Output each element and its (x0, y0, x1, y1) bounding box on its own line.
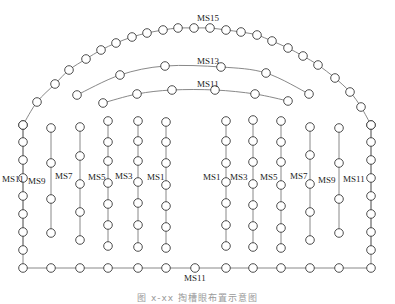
column-hole (104, 117, 113, 126)
column-hole (277, 181, 286, 190)
floor-hole (76, 264, 85, 273)
floor-hole (277, 264, 286, 273)
perimeter-hole (190, 24, 199, 33)
column-hole (47, 124, 56, 133)
floor-hole (104, 264, 113, 273)
label-column-ms5: MS5 (260, 172, 278, 182)
column-hole (222, 221, 231, 230)
column-hole (134, 243, 143, 252)
perimeter-hole (82, 55, 91, 64)
column-hole (162, 223, 171, 232)
perimeter-hole (51, 80, 60, 89)
label-column-ms9: MS9 (28, 176, 46, 186)
perimeter-hole (33, 98, 42, 107)
arc-hole (251, 90, 260, 99)
perimeter-hole (112, 39, 121, 48)
floor-hole (162, 264, 171, 273)
arc-hole (161, 62, 170, 71)
column-hole (277, 158, 286, 167)
column-hole (222, 159, 231, 168)
column-hole (162, 202, 171, 211)
column-hole (104, 221, 113, 230)
arc-hole (99, 99, 108, 108)
column-hole (222, 178, 231, 187)
column-hole (306, 208, 315, 217)
column-hole (367, 192, 376, 201)
perimeter-hole (97, 46, 106, 55)
perimeter-hole (346, 88, 355, 97)
column-hole (134, 157, 143, 166)
column-hole (19, 228, 28, 237)
label-ms15: MS15 (197, 13, 220, 23)
floor-hole (335, 264, 344, 273)
perimeter-hole (237, 28, 246, 37)
perimeter-hole (206, 24, 215, 33)
label-column-ms1: MS1 (203, 172, 221, 182)
perimeter-hole (174, 24, 183, 33)
column-hole (19, 156, 28, 165)
arc-hole (262, 69, 271, 78)
column-hole (134, 137, 143, 146)
arc-hole (168, 86, 177, 95)
column-hole (367, 246, 376, 255)
floor-hole (191, 264, 200, 273)
column-hole (277, 117, 286, 126)
column-hole (222, 199, 231, 208)
column-hole (367, 121, 376, 130)
floor-hole (306, 264, 315, 273)
column-hole (76, 152, 85, 161)
column-hole (249, 243, 258, 252)
floor-hole (367, 264, 376, 273)
outline-wall-floor-line (23, 125, 371, 268)
column-hole (19, 138, 28, 147)
perimeter-hole (65, 66, 74, 75)
floor-hole (47, 264, 56, 273)
perimeter-hole (299, 52, 308, 61)
column-hole (277, 244, 286, 253)
label-column-ms9: MS9 (318, 175, 336, 185)
column-hole (47, 229, 56, 238)
column-hole (335, 124, 344, 133)
arc-hole (116, 71, 125, 80)
perimeter-hole (159, 26, 168, 35)
column-hole (249, 222, 258, 231)
perimeter-hole (253, 31, 262, 40)
label-column-ms5: MS5 (88, 172, 106, 182)
figure-caption: 图 x-xx 掏槽眼布置示意图 (0, 291, 395, 304)
column-hole (249, 137, 258, 146)
perimeter-hole (357, 103, 366, 112)
label-column-ms11: MS11 (343, 174, 365, 184)
floor-hole (134, 264, 143, 273)
column-hole (134, 221, 143, 230)
column-hole (19, 192, 28, 201)
label-column-ms3: MS3 (115, 171, 133, 181)
column-hole (306, 151, 315, 160)
column-hole (162, 159, 171, 168)
floor-hole (222, 264, 231, 273)
column-hole (249, 116, 258, 125)
column-hole (19, 121, 28, 130)
perimeter-hole (222, 26, 231, 35)
label-column-ms1: MS1 (147, 172, 165, 182)
column-hole (104, 242, 113, 251)
column-hole (19, 246, 28, 255)
arc-hole (73, 91, 82, 100)
outline-arc-line (23, 28, 371, 125)
label-floor-ms11: MS11 (184, 273, 206, 283)
label-column-ms7: MS7 (290, 171, 308, 181)
floor-hole (19, 264, 28, 273)
column-hole (222, 117, 231, 126)
column-hole (367, 228, 376, 237)
column-hole (162, 118, 171, 127)
label-column-ms7: MS7 (55, 171, 73, 181)
perimeter-hole (143, 29, 152, 38)
column-hole (47, 159, 56, 168)
inner-arc-line (103, 90, 288, 104)
label-column-ms3: MS3 (230, 172, 248, 182)
column-hole (76, 236, 85, 245)
column-hole (277, 138, 286, 147)
column-hole (104, 157, 113, 166)
column-hole (222, 242, 231, 251)
label-arc-ms13: MS13 (197, 56, 220, 66)
